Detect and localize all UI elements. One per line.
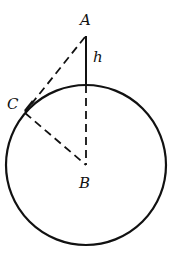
label-B: B [79, 176, 90, 191]
label-A: A [80, 13, 91, 28]
segment-AC [25, 37, 85, 112]
segment-CB [25, 113, 86, 165]
label-h: h [93, 50, 103, 65]
label-C: C [7, 97, 18, 112]
geometry-figure [0, 0, 177, 259]
diagram-canvas: A h C B [0, 0, 177, 259]
